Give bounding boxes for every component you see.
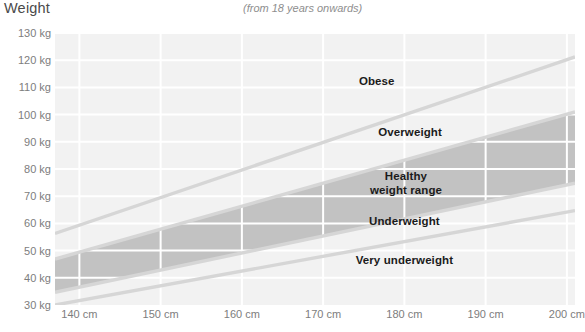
y-axis-tick-label: 30 kg (1, 299, 51, 311)
x-axis-tick-label: 200 cm (549, 308, 585, 320)
chart-plot-area: ObeseOverweightHealthy weight rangeUnder… (55, 33, 575, 305)
x-axis-tick-label: 190 cm (468, 308, 504, 320)
zone-label-overweight: Overweight (378, 125, 442, 139)
x-axis-tick-label: 140 cm (61, 308, 97, 320)
y-axis-tick-label: 60 kg (1, 217, 51, 229)
y-axis: 30 kg40 kg50 kg60 kg70 kg80 kg90 kg100 k… (0, 33, 51, 305)
y-axis-tick-label: 40 kg (1, 272, 51, 284)
y-axis-tick-label: 130 kg (1, 27, 51, 39)
y-axis-tick-label: 110 kg (1, 81, 51, 93)
chart-svg (55, 33, 575, 305)
x-axis-tick-label: 180 cm (386, 308, 422, 320)
y-axis-tick-label: 90 kg (1, 136, 51, 148)
zone-label-healthy-weight-range: Healthy weight range (370, 169, 442, 197)
y-axis-tick-label: 50 kg (1, 245, 51, 257)
y-axis-tick-label: 70 kg (1, 190, 51, 202)
zone-label-obese: Obese (359, 74, 395, 88)
x-axis: 140 cm150 cm160 cm170 cm180 cm190 cm200 … (55, 308, 584, 328)
band-healthy-weight-range (55, 112, 575, 292)
chart-subtitle: (from 18 years onwards) (243, 2, 362, 14)
page-title: Weight (4, 0, 50, 16)
y-axis-tick-label: 80 kg (1, 163, 51, 175)
x-axis-tick-label: 150 cm (143, 308, 179, 320)
x-axis-tick-label: 170 cm (305, 308, 341, 320)
zone-label-underweight: Underweight (369, 214, 440, 228)
y-axis-tick-label: 120 kg (1, 54, 51, 66)
x-axis-tick-label: 160 cm (224, 308, 260, 320)
zone-label-very-underweight: Very underweight (356, 253, 453, 267)
y-axis-tick-label: 100 kg (1, 109, 51, 121)
